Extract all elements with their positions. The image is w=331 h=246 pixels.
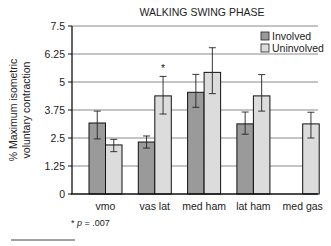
y-tick-label: 3.75 bbox=[45, 104, 66, 116]
bar-involved bbox=[138, 142, 155, 194]
y-tick-label: 2.5 bbox=[50, 132, 65, 144]
chart-title: WALKING SWING PHASE bbox=[139, 6, 264, 18]
legend: Involved Uninvolved bbox=[261, 30, 324, 54]
legend-swatch-involved bbox=[261, 32, 269, 40]
category-label: med gas bbox=[283, 200, 323, 212]
y-tick-label: 6.25 bbox=[45, 48, 66, 60]
legend-swatch-uninvolved bbox=[261, 44, 269, 52]
y-tick-label: 0 bbox=[59, 188, 65, 200]
y-tick-label: 5 bbox=[59, 76, 65, 88]
category-label: vmo bbox=[96, 200, 116, 212]
category-label: med ham bbox=[182, 200, 226, 212]
category-label: lat ham bbox=[236, 200, 271, 212]
y-tick-label: 1.25 bbox=[45, 160, 66, 172]
footnote: * p = .007 bbox=[71, 218, 110, 228]
y-axis-label-line-1: % Maximum isometric bbox=[7, 59, 19, 162]
footnote-value: = .007 bbox=[82, 218, 110, 228]
legend-label-involved: Involved bbox=[272, 30, 311, 42]
bars: * bbox=[89, 48, 319, 194]
y-axis-label-line-2: voluntary contraction bbox=[20, 61, 32, 158]
category-labels: vmovas latmed hamlat hammed gas bbox=[96, 200, 323, 212]
y-tick-label: 7.5 bbox=[50, 20, 65, 32]
y-tick-labels: 01.252.53.7556.257.5 bbox=[45, 20, 66, 200]
chart: WALKING SWING PHASE 01.252.53.7556.257.5… bbox=[0, 0, 331, 246]
category-label: vas lat bbox=[140, 200, 170, 212]
legend-label-uninvolved: Uninvolved bbox=[272, 42, 324, 54]
bar-uninvolved bbox=[106, 145, 123, 194]
significance-marker: * bbox=[161, 62, 165, 74]
